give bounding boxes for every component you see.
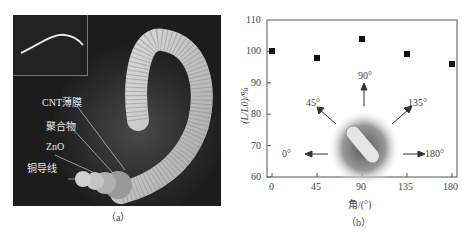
label-zno: ZnO: [46, 141, 64, 152]
xtick-0: 0: [269, 181, 274, 192]
xtick-135: 135: [398, 181, 413, 192]
label-cnt-film: CNT薄膜: [42, 94, 82, 109]
direction-135: 135°: [408, 97, 427, 108]
data-point-45: [314, 55, 320, 61]
direction-90: 90°: [358, 70, 372, 81]
x-axis-label: 角/(°): [348, 196, 371, 211]
ytick-90: 90: [251, 77, 261, 88]
ytick-100: 100: [246, 45, 261, 56]
fiber-illustration: CNT薄膜 聚合物 ZnO 铜导线: [13, 15, 221, 206]
xtick-180: 180: [443, 181, 458, 192]
direction-180: 180°: [425, 148, 444, 159]
label-polymer: 聚合物: [46, 118, 76, 133]
ytick-80: 80: [251, 108, 261, 119]
data-point-90: [359, 36, 365, 42]
caption-b: （b）: [346, 214, 371, 229]
direction-0: 0°: [282, 148, 291, 159]
direction-45: 45°: [306, 97, 320, 108]
data-point-135: [404, 51, 410, 57]
ytick-60: 60: [251, 171, 261, 182]
label-copper-wire: 铜导线: [27, 160, 57, 175]
inset-photo: [13, 15, 88, 76]
ytick-110: 110: [246, 14, 261, 25]
ytick-70: 70: [251, 140, 261, 151]
y-axis-label: (L/L0)/%: [239, 87, 250, 124]
data-point-0: [269, 48, 275, 54]
data-point-180: [449, 61, 455, 67]
xtick-90: 90: [356, 181, 366, 192]
xtick-45: 45: [311, 181, 321, 192]
caption-a: （a）: [106, 209, 130, 224]
scatter-chart: 110 100 90 80 70 60 0 45 90 135 180 角/(°…: [240, 0, 471, 242]
